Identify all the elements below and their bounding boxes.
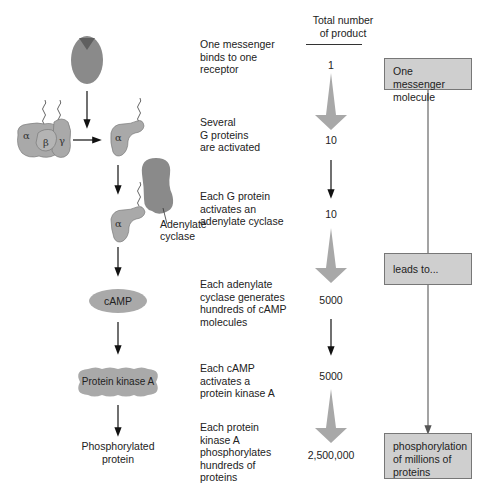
desc-line: Each adenylate — [200, 278, 286, 291]
desc-line: cyclase generates — [200, 291, 286, 304]
box-line: phosphorylation — [393, 440, 463, 453]
desc-line: Each G protein — [200, 190, 283, 203]
desc-line: activates an — [200, 203, 283, 216]
desc-line: Each cAMP — [200, 362, 275, 375]
pka-label: Protein kinase A — [74, 376, 162, 387]
desc-line: One messenger — [200, 38, 275, 51]
column-header-line2: of product — [303, 27, 383, 40]
g-alpha-active-icon: α — [111, 98, 144, 156]
desc-line: adenylate cyclase — [200, 215, 283, 228]
svg-text:γ: γ — [59, 135, 65, 146]
desc-line: binds to one — [200, 51, 275, 64]
step-description-6: Each protein kinase A phosphorylates hun… — [200, 421, 271, 484]
label-line: Adenylate — [160, 218, 207, 230]
summary-box-messenger: One messenger molecule — [384, 58, 472, 90]
count-step-1: 1 — [291, 59, 371, 71]
receptor-icon — [71, 36, 103, 84]
phosphorylated-protein-label: Phosphorylated protein — [68, 440, 168, 466]
header-divider — [306, 44, 362, 45]
label-line: cyclase — [160, 230, 207, 242]
desc-line: receptor — [200, 63, 275, 76]
desc-line: Each protein — [200, 421, 271, 434]
desc-line: kinase A — [200, 434, 271, 447]
column-header: Total number of product — [303, 14, 383, 40]
desc-line: phosphorylates — [200, 446, 271, 459]
desc-line: are activated — [200, 141, 260, 154]
desc-line: proteins — [200, 471, 271, 484]
step-description-4: Each adenylate cyclase generates hundred… — [200, 278, 286, 328]
summary-box-leads-to: leads to... — [384, 253, 472, 285]
desc-line: hundreds of cAMP — [200, 303, 286, 316]
svg-text:β: β — [43, 137, 49, 148]
step-description-5: Each cAMP activates a protein kinase A — [200, 362, 275, 400]
box-line: of millions of — [393, 453, 463, 466]
count-step-5: 5000 — [291, 370, 371, 382]
box-line: One messenger — [393, 65, 463, 91]
desc-line: activates a — [200, 375, 275, 388]
step-description-1: One messenger binds to one receptor — [200, 38, 275, 76]
box-line: leads to... — [393, 263, 463, 276]
step-description-3: Each G protein activates an adenylate cy… — [200, 190, 283, 228]
desc-line: Several — [200, 116, 260, 129]
label-line: protein — [68, 453, 168, 466]
column-header-line1: Total number — [303, 14, 383, 27]
alpha-label: α — [23, 130, 30, 141]
count-step-2: 10 — [291, 134, 371, 146]
summary-box-result: phosphorylation of millions of proteins — [384, 433, 472, 479]
desc-line: G proteins — [200, 129, 260, 142]
desc-line: hundreds of — [200, 459, 271, 472]
count-step-6: 2,500,000 — [291, 449, 371, 461]
amplification-arrow-icon — [315, 73, 347, 130]
amplification-arrow-icon — [315, 228, 347, 283]
box-line: proteins — [393, 466, 463, 479]
svg-text:α: α — [115, 132, 122, 143]
desc-line: molecules — [200, 316, 286, 329]
label-line: Phosphorylated — [68, 440, 168, 453]
count-step-3: 10 — [291, 208, 371, 220]
svg-text:α: α — [115, 218, 122, 229]
box-line: molecule — [393, 91, 463, 104]
g-protein-trimer-icon: α β γ — [18, 100, 71, 157]
adenylate-cyclase-label: Adenylate cyclase — [160, 218, 207, 242]
step-description-2: Several G proteins are activated — [200, 116, 260, 154]
desc-line: protein kinase A — [200, 387, 275, 400]
count-step-4: 5000 — [291, 294, 371, 306]
amplification-arrow-icon — [315, 389, 347, 443]
camp-label: cAMP — [89, 295, 147, 307]
